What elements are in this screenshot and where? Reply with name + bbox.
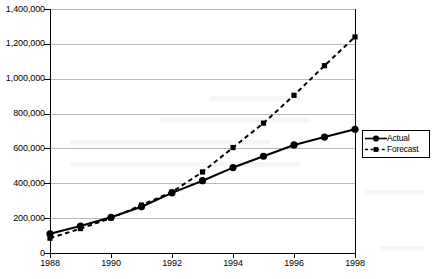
data-point-forecast (47, 236, 52, 241)
data-point-actual (321, 134, 328, 141)
legend-key-actual-icon (365, 133, 387, 144)
data-point-forecast (139, 202, 144, 207)
data-point-actual (229, 164, 236, 171)
data-point-forecast (108, 216, 113, 221)
legend-label-forecast: Forecast (387, 145, 418, 154)
data-point-forecast (230, 145, 235, 150)
data-point-forecast (200, 169, 205, 174)
legend-item-actual[interactable]: Actual (365, 133, 427, 144)
data-point-forecast (78, 226, 83, 231)
legend-key-forecast-icon (365, 144, 387, 155)
data-point-actual (199, 177, 206, 184)
data-point-forecast (291, 93, 296, 98)
data-point-actual (351, 126, 358, 133)
data-point-forecast (352, 34, 357, 39)
data-point-forecast (322, 63, 327, 68)
legend-item-forecast[interactable]: Forecast (365, 144, 427, 155)
data-point-forecast (261, 121, 266, 126)
data-point-forecast (169, 189, 174, 194)
line-chart: 0200,000400,000600,000800,0001,000,0001,… (0, 0, 434, 279)
chart-legend: Actual Forecast (362, 130, 430, 158)
series-line-forecast (50, 37, 355, 238)
legend-label-actual: Actual (387, 134, 409, 143)
data-point-actual (260, 153, 267, 160)
data-point-actual (290, 141, 297, 148)
